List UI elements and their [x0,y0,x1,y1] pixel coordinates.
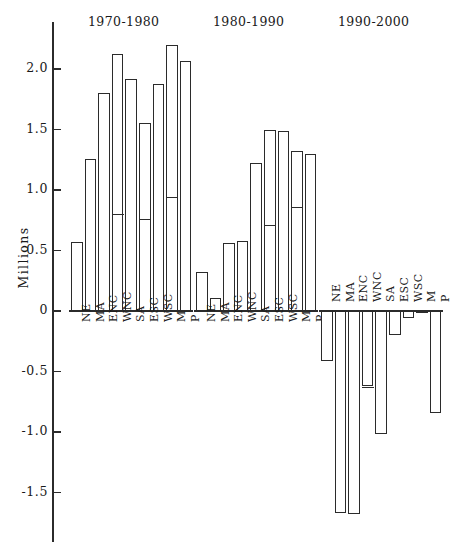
y-tick-label: 1.0 [26,183,48,196]
bar [112,54,124,311]
y-tick [52,68,61,70]
bar-inner-mark [112,214,124,215]
category-label: MA [220,302,231,322]
bar [278,131,290,311]
bar-inner-mark [362,387,374,388]
category-label: P [190,314,201,322]
category-label: SA [385,286,396,302]
y-tick-label: -0.5 [21,365,48,378]
category-label: ESC [399,277,410,302]
y-tick-label: 0 [39,304,48,317]
category-label: ENC [108,294,119,322]
y-tick-label: 1.5 [26,123,48,136]
y-tick [52,431,61,433]
bar-inner-mark [264,225,276,226]
bar [375,311,387,434]
category-label: MA [345,282,356,302]
bar [305,154,317,311]
category-label: ESC [274,297,285,322]
bar [85,159,97,311]
bar [264,130,276,312]
category-label: P [440,294,451,302]
bar [362,311,374,386]
bar-inner-mark [139,219,151,220]
y-axis-line [52,22,54,542]
bar [321,311,333,361]
panel-title: 1990-2000 [338,14,409,29]
bar [180,61,192,311]
bar [416,311,428,313]
y-tick-label: -1.0 [21,425,48,438]
category-label: M [426,290,437,302]
bar [139,123,151,311]
category-label: ENC [358,274,369,302]
category-label: ENC [233,294,244,322]
category-label: ESC [149,297,160,322]
bar [389,311,401,335]
y-tick [52,492,61,494]
panel-title: 1970-1980 [88,14,159,29]
category-label: SA [260,306,271,322]
bar [250,163,262,311]
category-label: WNC [247,291,258,322]
bar [71,242,83,311]
y-tick [52,371,61,373]
y-tick [52,189,61,191]
bar [335,311,347,513]
bar [125,79,137,311]
bar [403,311,415,318]
category-label: NE [81,303,92,322]
category-label: M [301,310,312,322]
y-tick [52,250,61,252]
category-label: WNC [372,271,383,302]
bar [430,311,442,413]
y-tick-label: -1.5 [21,486,48,499]
category-label: NE [206,303,217,322]
panel-title: 1980-1990 [213,14,284,29]
category-label: MA [95,302,106,322]
category-label: NE [331,283,342,302]
bar [348,311,360,514]
category-label: WSC [413,273,424,302]
category-label: WNC [122,291,133,322]
y-tick [52,310,61,312]
bar [153,84,165,311]
category-label: SA [135,306,146,322]
bar [166,45,178,311]
bar-inner-mark [291,207,303,208]
bar-inner-mark [166,197,178,198]
y-tick-label: 2.0 [26,62,48,75]
y-axis-title: Millions [16,213,31,303]
y-tick [52,129,61,131]
category-label: WSC [288,293,299,322]
category-label: M [176,310,187,322]
bar [98,93,110,311]
bar [291,151,303,311]
category-label: WSC [163,293,174,322]
